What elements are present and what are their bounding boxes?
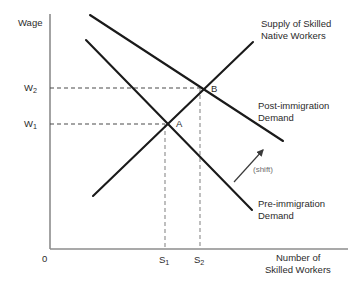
x-tick-s1-sub: 1	[165, 258, 169, 267]
point-a-label: A	[176, 118, 182, 130]
pre-immigration-demand-label-line1: Pre-immigration	[258, 198, 325, 210]
origin-label: 0	[42, 253, 47, 265]
y-tick-w1-text: W	[24, 118, 33, 129]
x-axis-label-line2: Skilled Workers	[265, 264, 331, 276]
y-tick-w2-text: W	[24, 82, 33, 93]
y-tick-w2: W2	[24, 82, 37, 95]
y-tick-w2-sub: 2	[33, 86, 37, 95]
y-axis-label: Wage	[18, 17, 42, 29]
x-axis-label-line1: Number of	[276, 252, 320, 264]
x-tick-s2-sub: 2	[200, 258, 204, 267]
x-tick-s1: S1	[159, 254, 169, 267]
supply-curve	[93, 42, 253, 196]
post-immigration-demand-curve	[90, 15, 283, 141]
y-tick-w1-sub: 1	[33, 122, 37, 131]
point-b-label: B	[211, 83, 217, 95]
supply-curve-label-line1: Supply of Skilled	[261, 18, 331, 30]
x-tick-s2: S2	[194, 254, 204, 267]
post-immigration-demand-label-line2: Demand	[258, 112, 294, 124]
shift-annotation-label: (shift)	[253, 164, 273, 176]
pre-immigration-demand-label-line2: Demand	[258, 210, 294, 222]
post-immigration-demand-label-line1: Post-immigration	[258, 100, 329, 112]
y-tick-w1: W1	[24, 118, 37, 131]
supply-curve-label-line2: Native Workers	[261, 30, 326, 42]
supply-demand-diagram: Wage 0 W2 W1 S1 S2 A B Supply of Skilled…	[0, 0, 350, 294]
plot-canvas	[0, 0, 350, 294]
